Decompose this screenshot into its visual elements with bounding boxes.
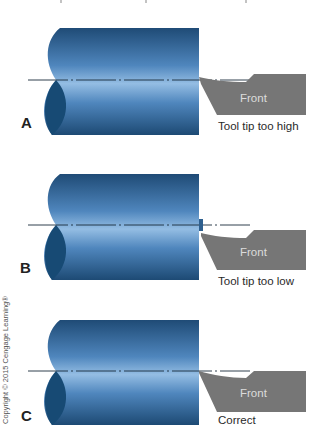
title-fragment [60,0,247,3]
panel-label-c: C [21,407,32,424]
tool-front-label: Front [240,92,268,104]
panel-a: Front A Tool tip too high [21,28,306,135]
panel-b: Front B Tool tip too low [20,174,306,287]
panel-label-b: B [20,259,31,276]
panel-c: Front C Correct [21,320,306,425]
lathe-tool-height-diagram: Front A Tool tip too high Front B Tool t… [0,0,330,425]
tool-tip-nub [199,219,203,231]
panel-label-a: A [21,114,32,131]
panel-caption-a: Tool tip too high [218,120,299,132]
workpiece-cylinder [44,174,199,280]
tool-front-label: Front [240,387,268,399]
panel-caption-c: Correct [218,414,257,425]
panel-caption-b: Tool tip too low [218,275,295,287]
copyright-notice: Copyright © 2015 Cengage Learning® [1,296,10,424]
workpiece-cylinder [44,320,199,425]
tool-front-label: Front [240,246,268,258]
workpiece-cylinder [44,28,199,135]
